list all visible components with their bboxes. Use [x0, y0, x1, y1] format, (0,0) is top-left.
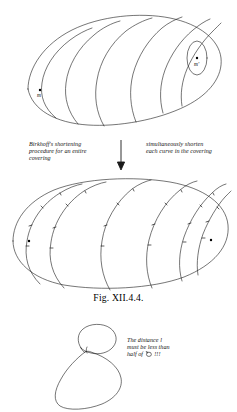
down-arrow-icon — [112, 139, 130, 171]
middle-curve-4 — [147, 181, 197, 288]
middle-curve-2 — [50, 182, 106, 288]
annotation-bottom-line3-suffix: !!! — [154, 351, 160, 357]
top-curve-5 — [161, 19, 210, 113]
bottom-figure — [47, 322, 131, 412]
top-curve-2 — [66, 21, 121, 124]
systole-loop-symbol-icon — [145, 351, 152, 357]
annotation-left-line2: procedure for an entire — [29, 148, 109, 155]
top-figure: m m' — [0, 0, 237, 140]
middle-outer-outline — [13, 179, 228, 289]
middle-point-m — [28, 240, 30, 242]
annotation-bottom-line3: half of !!! — [127, 351, 223, 358]
bottom-neck-2 — [86, 347, 87, 353]
annotation-bottom-line2: must be less than — [127, 344, 223, 351]
annotation-bottom-line3-prefix: half of — [127, 351, 143, 357]
figure-caption: Fig. XII.4.4. — [0, 292, 237, 303]
annotation-left-line3: covering — [29, 155, 109, 162]
annotation-right-line2: each curve in the covering — [146, 148, 236, 155]
figure-page: m m' Birkhoff's shortening procedure for… — [0, 0, 237, 412]
top-curve-4 — [131, 17, 182, 122]
middle-point-m-prime — [210, 239, 212, 241]
annotation-left-line1: Birkhoff's shortening — [29, 141, 109, 148]
top-label-m: m — [37, 92, 41, 98]
middle-curve-5 — [180, 184, 226, 281]
middle-figure: m m' — [0, 178, 237, 293]
bottom-figure-svg — [47, 322, 131, 412]
top-curve-3 — [96, 18, 152, 126]
middle-curve-3 — [101, 180, 151, 290]
top-figure-svg — [0, 0, 237, 140]
annotation-right: simultaneously shorten each curve in the… — [146, 141, 236, 155]
bottom-upper-lobe — [78, 324, 116, 353]
top-label-m-prime: m' — [194, 61, 199, 67]
top-point-m-prime — [196, 57, 198, 59]
middle-figure-svg — [0, 178, 237, 293]
top-curve-1 — [42, 28, 92, 118]
top-point-m — [39, 89, 41, 91]
annotation-bottom: The distance l must be less than half of… — [127, 337, 223, 358]
annotation-left: Birkhoff's shortening procedure for an e… — [29, 141, 109, 162]
annotation-right-line1: simultaneously shorten — [146, 141, 236, 148]
annotation-bottom-line1: The distance l — [127, 337, 223, 344]
bottom-lower-lobe — [55, 351, 121, 409]
